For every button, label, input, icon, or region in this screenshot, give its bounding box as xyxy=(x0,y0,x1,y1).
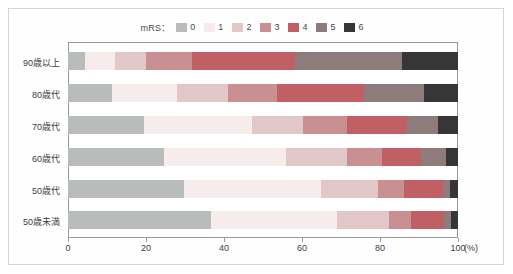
bar-segment[interactable] xyxy=(378,180,404,198)
x-axis-unit-label: (%) xyxy=(464,243,478,253)
x-axis-tick xyxy=(224,238,225,242)
bar-segment[interactable] xyxy=(112,84,177,102)
bar-segment[interactable] xyxy=(146,52,191,70)
x-axis-tick xyxy=(68,238,69,242)
bar-segment[interactable] xyxy=(228,84,277,102)
legend-swatch-0 xyxy=(176,23,187,32)
x-axis-tick-label: 0 xyxy=(65,243,70,253)
bar-segment[interactable] xyxy=(164,148,286,166)
x-axis-tick-label: 80 xyxy=(375,243,385,253)
chart-legend: mRS： 0 1 2 3 4 5 6 xyxy=(0,19,513,35)
bar-segment[interactable] xyxy=(115,52,147,70)
bar-segment[interactable] xyxy=(68,84,112,102)
bar-segment[interactable] xyxy=(421,148,447,166)
bar-row xyxy=(68,84,458,102)
bar-row xyxy=(68,116,458,134)
y-axis-label: 70歳代 xyxy=(32,120,60,133)
legend-label-6: 6 xyxy=(358,22,363,32)
x-axis-tick-labels: 020406080100(%) xyxy=(0,243,513,257)
x-axis-tick xyxy=(302,238,303,242)
legend-swatch-3 xyxy=(260,23,271,32)
figure-container: mRS： 0 1 2 3 4 5 6 90歳以上80歳代70 xyxy=(0,0,513,274)
bar-segment[interactable] xyxy=(411,211,444,229)
y-axis-label: 50歳代 xyxy=(32,184,60,197)
bar-row xyxy=(68,180,458,198)
legend-swatch-6 xyxy=(344,23,355,32)
legend-label-3: 3 xyxy=(274,22,279,32)
x-axis-tick-label: 60 xyxy=(297,243,307,253)
legend-item-1[interactable]: 1 xyxy=(204,22,223,32)
bar-segment[interactable] xyxy=(450,180,458,198)
bar-segment[interactable] xyxy=(286,148,346,166)
bar-segment[interactable] xyxy=(364,84,424,102)
legend-item-4[interactable]: 4 xyxy=(288,22,307,32)
legend-item-5[interactable]: 5 xyxy=(316,22,335,32)
bar-segment[interactable] xyxy=(68,52,85,70)
legend-label-1: 1 xyxy=(218,22,223,32)
bar-segment[interactable] xyxy=(277,84,365,102)
bars-layer xyxy=(68,42,458,238)
y-axis-label: 50歳未満 xyxy=(23,215,60,228)
legend-item-0[interactable]: 0 xyxy=(176,22,195,32)
bar-segment[interactable] xyxy=(347,116,407,134)
bar-segment[interactable] xyxy=(451,211,458,229)
bar-segment[interactable] xyxy=(211,211,337,229)
bar-segment[interactable] xyxy=(68,211,211,229)
bar-row xyxy=(68,52,458,70)
x-axis-tick xyxy=(458,238,459,242)
x-axis-tick xyxy=(380,238,381,242)
legend-label-0: 0 xyxy=(190,22,195,32)
x-axis-tick xyxy=(146,238,147,242)
bar-segment[interactable] xyxy=(252,116,303,134)
legend-swatch-1 xyxy=(204,23,215,32)
bar-segment[interactable] xyxy=(438,116,458,134)
bar-segment[interactable] xyxy=(68,116,144,134)
x-axis-tick-label: 40 xyxy=(219,243,229,253)
bar-segment[interactable] xyxy=(424,84,458,102)
bar-segment[interactable] xyxy=(192,52,295,70)
bar-row xyxy=(68,148,458,166)
y-axis-labels: 90歳以上80歳代70歳代60歳代50歳代50歳未満 xyxy=(0,42,64,238)
bar-segment[interactable] xyxy=(404,180,443,198)
bar-segment[interactable] xyxy=(68,180,184,198)
legend-title: mRS： xyxy=(141,21,171,34)
legend-item-2[interactable]: 2 xyxy=(232,22,251,32)
x-axis-tick-label: 20 xyxy=(141,243,151,253)
bar-segment[interactable] xyxy=(389,211,411,229)
bar-segment[interactable] xyxy=(68,148,164,166)
legend-swatch-4 xyxy=(288,23,299,32)
bar-segment[interactable] xyxy=(444,211,451,229)
legend-swatch-5 xyxy=(316,23,327,32)
bar-segment[interactable] xyxy=(382,148,420,166)
bar-segment[interactable] xyxy=(402,52,458,70)
legend-label-4: 4 xyxy=(302,22,307,32)
bar-segment[interactable] xyxy=(443,180,450,198)
y-axis-label: 80歳代 xyxy=(32,88,60,101)
legend-item-3[interactable]: 3 xyxy=(260,22,279,32)
bar-segment[interactable] xyxy=(347,148,382,166)
bar-segment[interactable] xyxy=(446,148,458,166)
bar-segment[interactable] xyxy=(295,52,402,70)
legend-label-2: 2 xyxy=(246,22,251,32)
bar-row xyxy=(68,211,458,229)
y-axis-label: 60歳代 xyxy=(32,152,60,165)
bar-segment[interactable] xyxy=(337,211,389,229)
bar-segment[interactable] xyxy=(85,52,115,70)
bar-segment[interactable] xyxy=(303,116,347,134)
y-axis-label: 90歳以上 xyxy=(23,56,60,69)
bar-segment[interactable] xyxy=(144,116,252,134)
bar-segment[interactable] xyxy=(184,180,321,198)
legend-swatch-2 xyxy=(232,23,243,32)
legend-item-6[interactable]: 6 xyxy=(344,22,363,32)
bar-segment[interactable] xyxy=(177,84,228,102)
bar-segment[interactable] xyxy=(407,116,438,134)
legend-label-5: 5 xyxy=(330,22,335,32)
bar-segment[interactable] xyxy=(321,180,378,198)
